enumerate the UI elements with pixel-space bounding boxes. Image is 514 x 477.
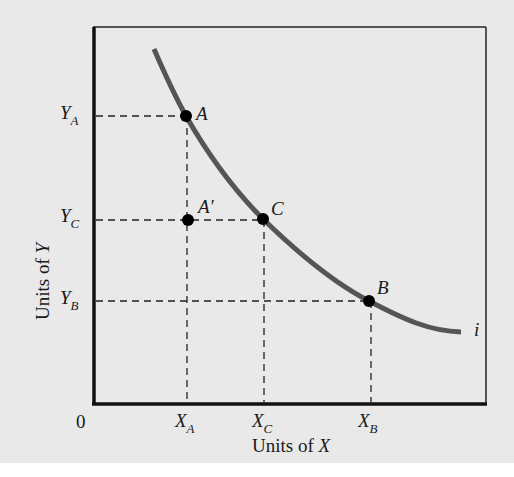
x-axis-title: Units of X xyxy=(252,435,332,456)
origin-label: 0 xyxy=(76,411,86,432)
y-tick-yb: YB xyxy=(60,287,79,313)
x-tick-xc: XC xyxy=(251,410,273,436)
x-tick-xa: XA xyxy=(174,410,195,436)
point-a xyxy=(180,110,192,122)
y-tick-yc: YC xyxy=(60,205,80,231)
x-tick-xb: XB xyxy=(357,410,378,436)
point-b xyxy=(363,295,375,307)
indifference-curve xyxy=(154,49,461,332)
point-a-prime xyxy=(182,214,194,226)
y-axis-title: Units of Y xyxy=(32,241,53,321)
indifference-curve-diagram: A A′ C B i YA YC YB 0 XA XC XB Units of … xyxy=(0,0,514,477)
point-a-prime-label: A′ xyxy=(196,196,215,217)
y-tick-ya: YA xyxy=(60,102,79,128)
curve-label-i: i xyxy=(474,319,479,340)
point-c xyxy=(257,213,269,225)
point-a-label: A xyxy=(194,103,208,124)
point-b-label: B xyxy=(377,277,389,298)
point-c-label: C xyxy=(271,198,284,219)
